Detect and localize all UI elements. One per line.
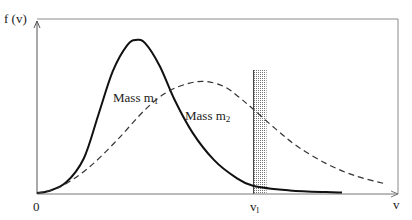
m1-label-sub: 1 (154, 96, 159, 106)
threshold-label-sub: l (257, 205, 260, 215)
y-axis-label: f (v) (4, 12, 27, 25)
origin-label: 0 (33, 200, 40, 213)
curve-mass-m2 (37, 81, 384, 193)
threshold-label: vl (250, 200, 259, 215)
series-label-mass-m2: Mass m2 (185, 109, 230, 124)
x-axis-label: v (393, 198, 400, 211)
threshold-band (254, 70, 267, 194)
series-label-mass-m1: Mass m1 (113, 91, 158, 106)
m2-label-sub: 2 (226, 114, 231, 124)
m1-label-main: Mass m (113, 90, 154, 105)
m2-label-main: Mass m (185, 108, 226, 123)
